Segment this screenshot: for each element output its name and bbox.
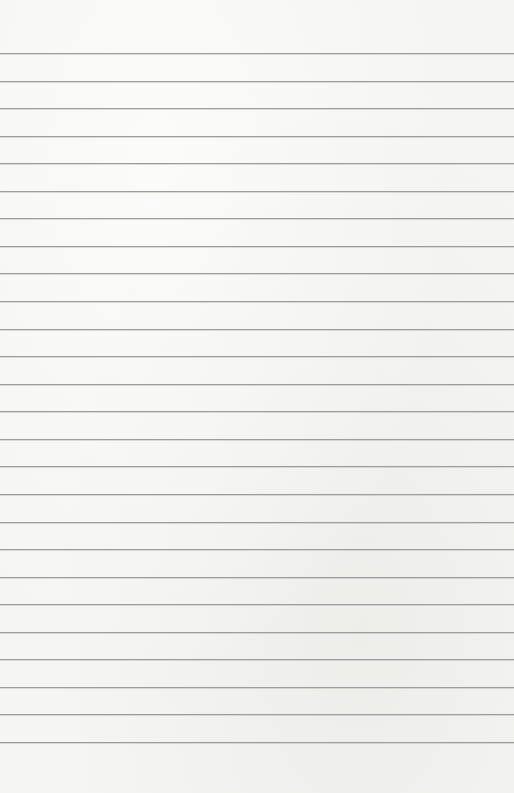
ruled-line <box>0 687 514 688</box>
ruled-line <box>0 218 514 219</box>
ruled-line <box>0 273 514 274</box>
ruled-line <box>0 356 514 357</box>
ruled-line <box>0 522 514 523</box>
ruled-line <box>0 191 514 192</box>
ruled-line <box>0 163 514 164</box>
ruled-line <box>0 659 514 660</box>
ruled-line <box>0 494 514 495</box>
ruled-line <box>0 742 514 743</box>
ruled-line <box>0 577 514 578</box>
ruled-line <box>0 246 514 247</box>
ruled-line <box>0 604 514 605</box>
ruled-line <box>0 81 514 82</box>
ruled-line <box>0 384 514 385</box>
ruled-line <box>0 549 514 550</box>
ruled-line <box>0 108 514 109</box>
ruled-line <box>0 714 514 715</box>
ruled-line <box>0 329 514 330</box>
ruled-line <box>0 301 514 302</box>
lined-paper-sheet <box>0 0 514 793</box>
ruled-line <box>0 136 514 137</box>
ruled-line <box>0 632 514 633</box>
ruled-line <box>0 53 514 54</box>
ruled-line <box>0 411 514 412</box>
ruled-line <box>0 439 514 440</box>
ruled-line <box>0 466 514 467</box>
